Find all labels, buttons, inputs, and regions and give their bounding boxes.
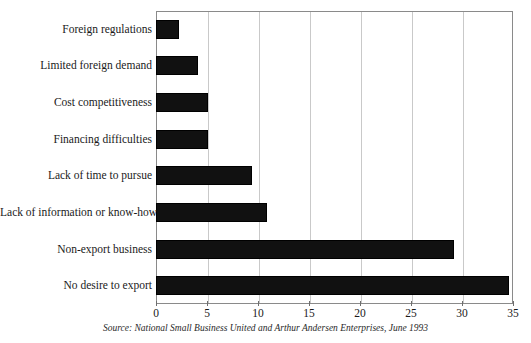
category-label: Non-export business — [0, 240, 152, 259]
x-tick-label: 35 — [507, 306, 519, 320]
category-label: No desire to export — [0, 276, 152, 295]
x-tick-label: 0 — [153, 306, 159, 320]
bar-row — [156, 130, 208, 149]
bar — [156, 20, 179, 39]
bar — [156, 93, 208, 112]
x-tick-label: 15 — [303, 306, 315, 320]
bar-row — [156, 166, 252, 185]
bar-row — [156, 93, 208, 112]
source-note: Source: National Small Business United a… — [0, 323, 531, 333]
bar — [156, 166, 252, 185]
category-label: Lack of information or know-how — [0, 203, 152, 222]
bars-group — [156, 11, 513, 304]
bar — [156, 56, 198, 75]
bar-row — [156, 203, 267, 222]
bar-row — [156, 240, 454, 259]
bar — [156, 276, 509, 295]
x-axis-ticks-group: 05101520253035 — [156, 306, 513, 322]
bar-chart-figure: Foreign regulationsLimited foreign deman… — [0, 0, 531, 343]
category-label: Financing difficulties — [0, 130, 152, 149]
category-label: Lack of time to pursue — [0, 166, 152, 185]
x-tick-label: 10 — [252, 306, 264, 320]
x-tick-label: 30 — [456, 306, 468, 320]
category-label: Cost competitiveness — [0, 93, 152, 112]
x-tick-label: 5 — [204, 306, 210, 320]
x-tick-label: 25 — [405, 306, 417, 320]
bar-row — [156, 20, 179, 39]
category-labels-group: Foreign regulationsLimited foreign deman… — [0, 11, 152, 304]
category-label: Limited foreign demand — [0, 56, 152, 75]
bar-row — [156, 56, 198, 75]
bar — [156, 130, 208, 149]
x-tick-label: 20 — [354, 306, 366, 320]
bar — [156, 203, 267, 222]
category-label: Foreign regulations — [0, 20, 152, 39]
bar-row — [156, 276, 509, 295]
bar — [156, 240, 454, 259]
